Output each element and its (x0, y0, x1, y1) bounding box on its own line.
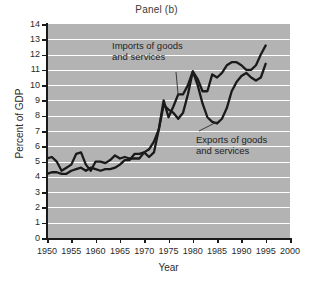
y-axis-label: Percent of GDP (14, 74, 25, 174)
annotation-imports: Imports of goods and services (112, 40, 183, 62)
annotation-exports: Exports of goods and services (196, 134, 267, 156)
chart-figure: Panel (b) 01234567891011121314 195019551… (0, 0, 313, 282)
x-axis-label: Year (47, 262, 290, 273)
